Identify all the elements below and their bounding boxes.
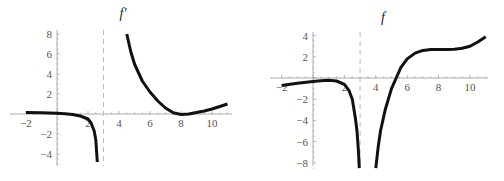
curve-left-branch: [26, 113, 97, 163]
curve-right-branch: [376, 37, 486, 168]
y-tick-label: −4: [40, 148, 52, 160]
y-tick-label: −8: [296, 157, 308, 169]
curve-left-branch: [282, 80, 360, 168]
y-tick-label: 4: [303, 30, 309, 42]
chart-f-svg: −224681042−2−4−6−8f: [252, 0, 504, 181]
y-tick-label: −2: [296, 93, 308, 105]
y-tick-label: 8: [47, 28, 53, 40]
chart-f-prime-svg: −22468108642−2−4f′: [0, 0, 252, 181]
chart-f: −224681042−2−4−6−8f: [252, 0, 504, 181]
y-tick-label: −4: [296, 114, 308, 126]
y-tick-label: 2: [47, 88, 53, 100]
y-tick-label: 6: [47, 48, 53, 60]
chart-title: f′: [120, 6, 128, 21]
x-tick-label: 6: [147, 117, 153, 129]
x-tick-label: 10: [465, 81, 477, 93]
y-tick-label: 2: [303, 51, 309, 63]
x-tick-label: 4: [373, 81, 379, 93]
curve-right-branch: [127, 34, 228, 115]
x-tick-label: 10: [207, 117, 219, 129]
x-tick-label: 6: [404, 81, 410, 93]
chart-f-prime: −22468108642−2−4f′: [0, 0, 252, 181]
y-tick-label: 4: [47, 68, 53, 80]
y-tick-label: −2: [40, 128, 52, 140]
chart-title: f: [381, 10, 387, 25]
x-tick-label: 8: [436, 81, 442, 93]
x-tick-label: 4: [116, 117, 122, 129]
y-tick-label: −6: [296, 136, 308, 148]
x-tick-label: −2: [20, 117, 32, 129]
x-tick-label: −2: [276, 81, 288, 93]
x-tick-label: 8: [178, 117, 184, 129]
